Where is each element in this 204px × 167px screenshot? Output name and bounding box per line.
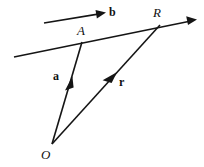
main-line-group <box>14 16 197 57</box>
label-vector-r: r <box>119 76 124 88</box>
label-vector-a: a <box>53 70 59 82</box>
direction-vector-b-line <box>44 14 101 23</box>
position-vector-a-line <box>52 42 82 144</box>
position-vector-a-arrowhead <box>65 76 74 90</box>
diagram-canvas <box>0 0 204 167</box>
vector-diagram: b R A a r O <box>0 0 204 167</box>
direction-vector-b-group <box>44 10 106 23</box>
label-vector-b: b <box>109 6 116 18</box>
label-point-O: O <box>41 148 50 161</box>
main-line-through-A-R <box>14 21 191 57</box>
label-point-R: R <box>153 6 161 19</box>
direction-vector-b-arrowhead <box>96 10 107 19</box>
position-vector-a-group <box>52 42 82 144</box>
label-point-A: A <box>77 24 85 37</box>
main-line-arrowhead <box>186 16 197 25</box>
position-vector-r-arrowhead <box>103 72 118 83</box>
